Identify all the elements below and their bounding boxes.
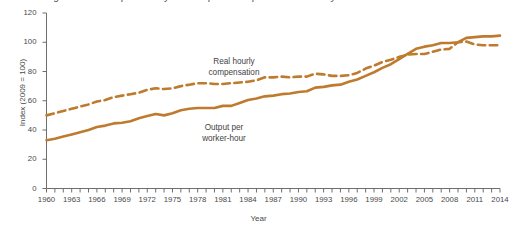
data-series-group [47, 36, 501, 141]
y-axis-ticks [43, 13, 47, 189]
y-tick-label: 40 [11, 125, 37, 134]
y-tick-label: 100 [11, 37, 37, 46]
y-tick-label: 20 [11, 154, 37, 163]
y-tick-label: 120 [11, 8, 37, 17]
x-axis-ticks [47, 189, 501, 193]
annotation-line-1: Real hourly [213, 57, 254, 66]
chart-figure: Figure: Growth in productivity and compe… [0, 0, 517, 231]
x-axis-title: Year [0, 214, 517, 223]
series-label-real-hourly-compensation: Real hourly compensation [186, 57, 282, 78]
series-label-output-per-worker-hour: Output per worker-hour [176, 123, 272, 144]
y-tick-label: 60 [11, 96, 37, 105]
y-axis-title: Index (2009 = 100) [18, 33, 27, 153]
annotation-line-2: compensation [209, 68, 260, 77]
axis-lines [47, 13, 501, 189]
y-tick-label: 0 [11, 184, 37, 193]
annotation-line-1: Output per [205, 123, 244, 132]
annotation-line-2: worker-hour [202, 134, 246, 143]
series-line-real-hourly-compensation [47, 42, 501, 116]
x-tick-label: 2014 [484, 195, 516, 204]
y-tick-label: 80 [11, 67, 37, 76]
